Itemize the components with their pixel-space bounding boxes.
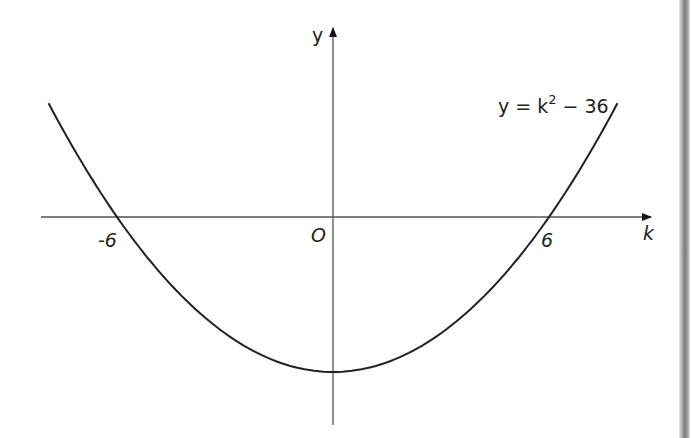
x-tick-6: 6 bbox=[541, 229, 553, 251]
page-edge-border bbox=[679, 0, 690, 438]
origin-label: O bbox=[311, 224, 326, 246]
x-axis-label: k bbox=[643, 222, 655, 244]
x-tick-neg6: -6 bbox=[98, 229, 117, 251]
plot-area: y k O -6 6 y = k2 − 36 bbox=[0, 0, 692, 438]
equation-label: y = k2 − 36 bbox=[498, 92, 609, 117]
parabola-figure: y k O -6 6 y = k2 − 36 bbox=[0, 0, 692, 438]
y-axis-label: y bbox=[312, 24, 323, 46]
